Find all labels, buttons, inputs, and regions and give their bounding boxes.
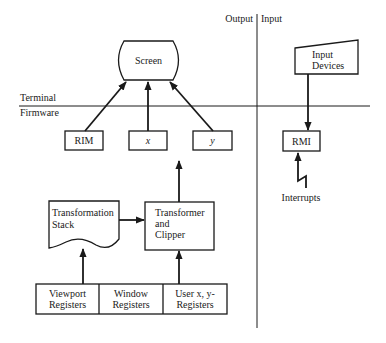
x-label: x [145,135,151,146]
interrupts-arrow [298,153,306,188]
window-registers-label-line1: Window [114,288,149,299]
y-register-node: y [193,131,232,150]
transformation-stack-node: Transformation Stack [49,201,119,248]
transformer-clipper-label-line2: and [155,218,169,229]
viewport-registers-label-line1: Viewport [49,288,86,299]
input-region-label: Input [261,13,282,24]
screen-node: Screen [119,41,179,80]
transformer-clipper-label-line3: Clipper [155,229,186,240]
window-registers-label-line2: Registers [112,299,149,310]
input-devices-node: Input Devices [295,40,358,74]
rmi-label: RMI [292,136,311,147]
input-devices-label-line2: Devices [312,60,344,71]
block-diagram: Output Input Terminal Firmware Screen RI… [0,0,386,343]
transformer-clipper-label-line1: Transformer [155,207,205,218]
firmware-region-label: Firmware [20,107,59,118]
register-row: Viewport Registers Window Registers User… [36,284,227,314]
rmi-node: RMI [283,131,320,151]
viewport-registers-label-line2: Registers [49,299,86,310]
transformation-stack-label-line1: Transformation [52,207,114,218]
transformer-clipper-node: Transformer and Clipper [145,202,214,250]
user-registers-label-line1: User x, y- [175,288,215,299]
rim-label: RIM [75,135,94,146]
user-registers-label-line2: Registers [176,299,213,310]
input-devices-label-line1: Input [312,49,333,60]
y-label: y [209,135,215,146]
screen-label: Screen [135,55,162,66]
rim-node: RIM [65,131,103,150]
user-registers-node: User x, y- Registers [175,288,215,310]
x-register-node: x [129,131,167,150]
viewport-registers-node: Viewport Registers [49,288,86,310]
window-registers-node: Window Registers [112,288,149,310]
terminal-region-label: Terminal [20,92,56,103]
transformation-stack-label-line2: Stack [52,219,74,230]
output-region-label: Output [225,13,253,24]
interrupts-label: Interrupts [282,192,321,203]
